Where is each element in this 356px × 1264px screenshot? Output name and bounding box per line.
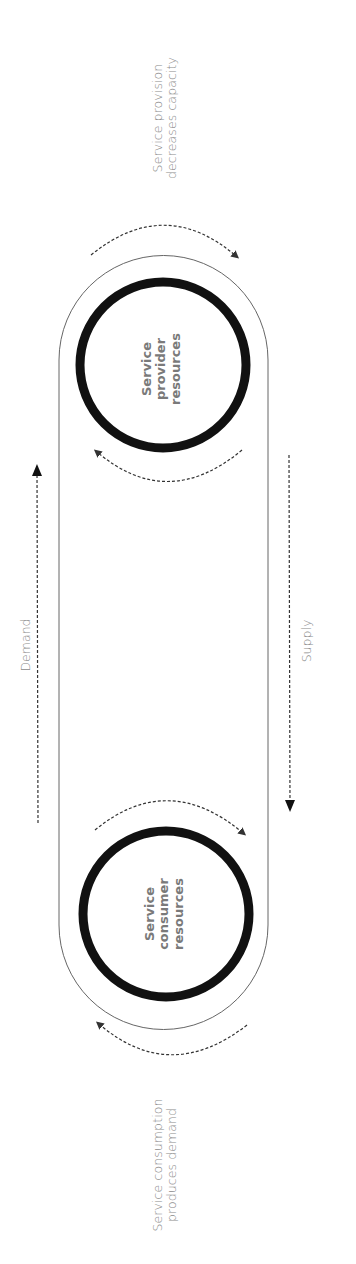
consumer-annotation: Service consumption produces demand xyxy=(151,1070,187,1260)
provider-outer-arc-arrow xyxy=(91,225,236,256)
demand-label: Demand xyxy=(19,615,35,675)
provider-label-line-2: provider xyxy=(154,324,168,414)
consumer-node-label: Service consumer resources xyxy=(143,869,189,959)
provider-label-line-1: Service xyxy=(140,324,154,414)
demand-arrow xyxy=(37,470,38,823)
consumer-annotation-line-1: Service consumption xyxy=(151,1070,165,1260)
consumer-annotation-line-2: produces demand xyxy=(165,1070,179,1260)
provider-label-line-3: resources xyxy=(169,324,183,414)
supply-arrow xyxy=(289,455,290,806)
provider-annotation-line-2: decreases capacity xyxy=(165,28,179,208)
provider-inner-arc-arrow xyxy=(97,450,242,482)
supply-label: Supply xyxy=(300,611,316,671)
consumer-label-line-2: consumer xyxy=(157,869,171,959)
consumer-label-line-3: resources xyxy=(172,869,186,959)
provider-annotation: Service provision decreases capacity xyxy=(151,28,187,208)
consumer-label-line-1: Service xyxy=(143,869,157,959)
provider-node-label: Service provider resources xyxy=(140,324,186,414)
provider-annotation-line-1: Service provision xyxy=(151,28,165,208)
